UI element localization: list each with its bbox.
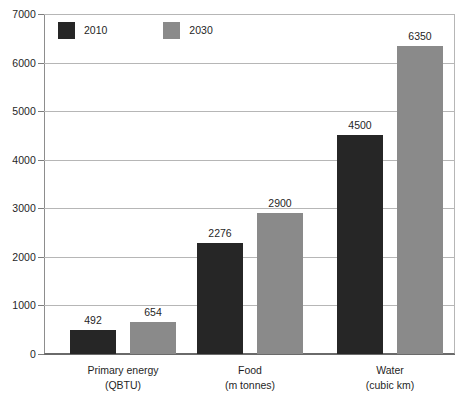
bar-2030-water[interactable] — [397, 46, 443, 354]
bar-value-label: 4500 — [327, 120, 393, 131]
y-tick-label: 5000 — [0, 106, 36, 116]
gridline — [44, 257, 455, 258]
y-tick-mark — [38, 257, 44, 258]
legend-item-2010[interactable]: 2010 — [58, 22, 107, 39]
bar-value-label: 6350 — [387, 31, 453, 42]
gridline — [44, 111, 455, 112]
bar-value-label: 654 — [120, 307, 186, 318]
y-tick-label: 0 — [0, 349, 36, 359]
legend: 2010 2030 — [58, 22, 213, 39]
bar-2030-primary-energy[interactable] — [130, 322, 176, 354]
legend-swatch-2030-icon — [163, 22, 180, 39]
x-category-name: Primary energy — [87, 364, 158, 376]
bar-2030-food[interactable] — [257, 213, 303, 354]
x-category-unit: (cubic km) — [315, 378, 465, 393]
legend-label-2010: 2010 — [84, 25, 107, 36]
gridline — [44, 63, 455, 64]
plot-area — [44, 14, 455, 354]
gridline — [44, 160, 455, 161]
y-tick-label-wrap: 0 — [0, 349, 36, 359]
gridline — [44, 305, 455, 306]
y-tick-mark — [38, 111, 44, 112]
gridline — [44, 354, 455, 355]
y-tick-label-wrap: 3000 — [0, 203, 36, 213]
y-tick-label: 4000 — [0, 155, 36, 165]
y-tick-label-wrap: 1000 — [0, 300, 36, 310]
y-tick-mark — [38, 354, 44, 355]
bar-value-label: 2276 — [187, 228, 253, 239]
bar-value-label: 492 — [60, 315, 126, 326]
bar-2010-water[interactable] — [337, 135, 383, 354]
gridline — [44, 14, 455, 15]
bar-2010-primary-energy[interactable] — [70, 330, 116, 354]
bar-2010-food[interactable] — [197, 243, 243, 354]
y-tick-label: 1000 — [0, 300, 36, 310]
legend-item-2030[interactable]: 2030 — [163, 22, 212, 39]
y-tick-label-wrap: 7000 — [0, 9, 36, 19]
y-tick-label-wrap: 4000 — [0, 155, 36, 165]
y-tick-mark — [38, 63, 44, 64]
y-tick-label-wrap: 6000 — [0, 58, 36, 68]
bar-chart: 01000200030004000500060007000 4926542276… — [0, 0, 465, 408]
x-category-name: Water — [376, 364, 404, 376]
x-category-label-food: Food(m tonnes) — [175, 363, 325, 393]
y-tick-label: 6000 — [0, 58, 36, 68]
legend-label-2030: 2030 — [189, 25, 212, 36]
y-tick-mark — [38, 14, 44, 15]
x-category-unit: (m tonnes) — [175, 378, 325, 393]
y-tick-label: 7000 — [0, 9, 36, 19]
y-tick-mark — [38, 160, 44, 161]
x-category-label-water: Water(cubic km) — [315, 363, 465, 393]
y-tick-label-wrap: 5000 — [0, 106, 36, 116]
y-tick-mark — [38, 208, 44, 209]
x-category-name: Food — [238, 364, 262, 376]
bar-value-label: 2900 — [247, 198, 313, 209]
y-tick-label-wrap: 2000 — [0, 252, 36, 262]
y-tick-label: 2000 — [0, 252, 36, 262]
y-tick-label: 3000 — [0, 203, 36, 213]
y-tick-mark — [38, 305, 44, 306]
legend-swatch-2010-icon — [58, 22, 75, 39]
